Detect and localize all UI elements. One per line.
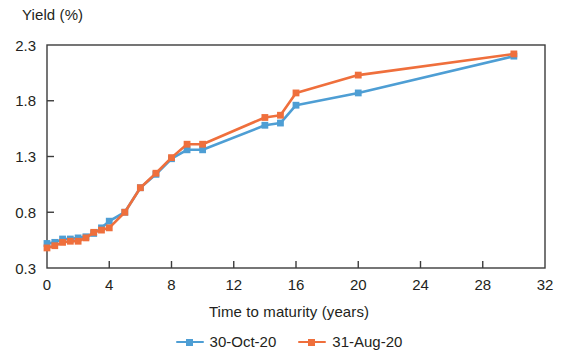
x-tick-group: 048121620242832 xyxy=(43,261,554,293)
chart-legend: 30-Oct-2031-Aug-20 xyxy=(0,333,578,350)
y-tick-label: 1.8 xyxy=(15,92,36,109)
y-tick-label: 2.3 xyxy=(15,37,36,54)
data-point-marker xyxy=(293,90,300,97)
legend-label: 31-Aug-20 xyxy=(332,333,402,350)
legend-item-31-aug-20[interactable]: 31-Aug-20 xyxy=(298,333,402,350)
y-tick-label: 1.3 xyxy=(15,148,36,165)
legend-item-30-oct-20[interactable]: 30-Oct-20 xyxy=(176,333,277,350)
data-point-marker xyxy=(510,51,517,58)
legend-swatch-icon xyxy=(298,336,326,348)
y-tick-label: 0.8 xyxy=(15,204,36,221)
legend-label: 30-Oct-20 xyxy=(210,333,277,350)
x-tick-label: 12 xyxy=(225,276,242,293)
series-layer xyxy=(44,51,518,252)
data-point-marker xyxy=(90,229,97,236)
data-point-marker xyxy=(153,170,160,177)
data-point-marker xyxy=(277,112,284,119)
data-point-marker xyxy=(293,102,300,109)
data-point-marker xyxy=(75,238,82,245)
data-point-marker xyxy=(44,245,51,252)
data-point-marker xyxy=(83,235,90,242)
data-point-marker xyxy=(355,90,362,97)
legend-swatch-icon xyxy=(176,336,204,348)
x-tick-label: 0 xyxy=(43,276,51,293)
x-tick-label: 4 xyxy=(105,276,113,293)
data-point-marker xyxy=(168,154,175,161)
data-point-marker xyxy=(98,227,105,234)
data-point-marker xyxy=(121,209,128,216)
y-tick-label: 0.3 xyxy=(15,260,36,277)
data-point-marker xyxy=(106,224,113,231)
x-tick-label: 8 xyxy=(167,276,175,293)
series-31-aug-20 xyxy=(44,51,518,252)
data-point-marker xyxy=(355,72,362,79)
series-30-oct-20 xyxy=(44,53,518,247)
yield-curve-chart: Yield (%) 0.30.81.31.82.3 04812162024283… xyxy=(0,0,578,358)
data-point-marker xyxy=(199,141,206,148)
x-tick-label: 16 xyxy=(288,276,305,293)
data-point-marker xyxy=(67,238,74,245)
data-point-marker xyxy=(51,242,58,249)
axis-frame xyxy=(47,45,545,268)
x-tick-label: 28 xyxy=(474,276,491,293)
x-axis-title: Time to maturity (years) xyxy=(0,303,578,320)
x-tick-label: 32 xyxy=(537,276,554,293)
data-point-marker xyxy=(137,184,144,191)
data-point-marker xyxy=(261,114,268,121)
data-point-marker xyxy=(59,239,66,246)
x-tick-label: 24 xyxy=(412,276,429,293)
data-point-marker xyxy=(261,122,268,129)
x-tick-label: 20 xyxy=(350,276,367,293)
data-point-marker xyxy=(277,120,284,127)
data-point-marker xyxy=(184,141,191,148)
data-point-marker xyxy=(106,218,113,225)
